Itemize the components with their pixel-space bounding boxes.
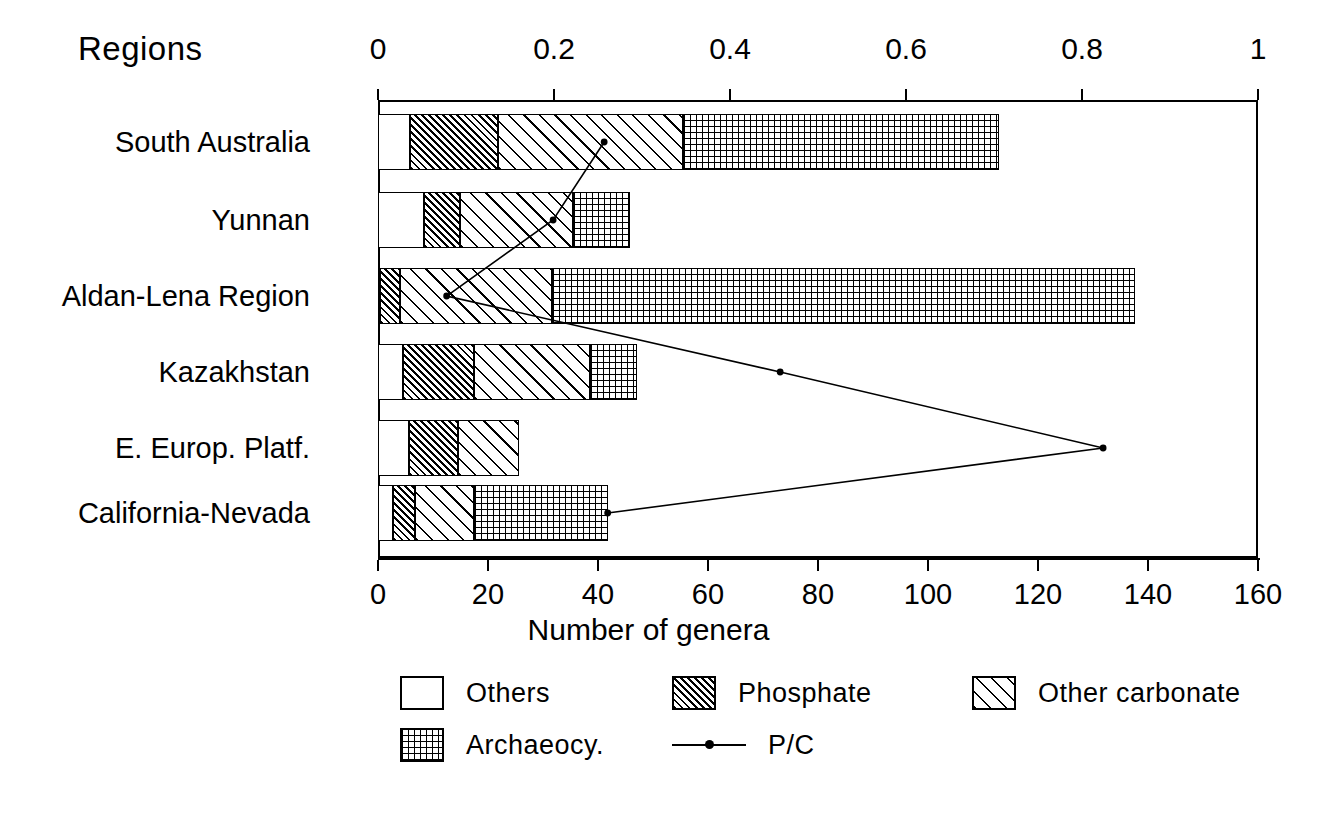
bottom-tick-label-40: 40 xyxy=(582,578,614,611)
top-tick-0.6 xyxy=(905,89,907,100)
bar-segment-phosphate xyxy=(403,344,475,400)
bar-segment-others xyxy=(378,485,393,541)
archaeocy-swatch-icon xyxy=(400,728,444,762)
legend-item-phosphate[interactable]: Phosphate xyxy=(672,676,872,710)
category-label-california-nevada: California-Nevada xyxy=(78,497,310,530)
others-swatch-icon xyxy=(400,676,444,710)
category-label-e-europ-platf: E. Europ. Platf. xyxy=(115,432,310,465)
legend-label-phosphate: Phosphate xyxy=(738,678,872,709)
legend-label-pc: P/C xyxy=(768,730,815,761)
bar-row xyxy=(378,192,1258,248)
bar-row xyxy=(378,420,1258,476)
bottom-tick-60 xyxy=(707,560,709,571)
bottom-tick-100 xyxy=(927,560,929,571)
bar-segment-other-carbonate xyxy=(498,114,683,170)
bottom-tick-80 xyxy=(817,560,819,571)
bar-segment-archaeocy xyxy=(590,344,637,400)
pc-line-marker-icon xyxy=(672,728,746,762)
bottom-tick-label-160: 160 xyxy=(1234,578,1282,611)
category-label-south-australia: South Australia xyxy=(115,126,310,159)
bottom-tick-160 xyxy=(1257,560,1259,571)
bar-segment-other-carbonate xyxy=(460,192,573,248)
chart-legend: Others Phosphate Other carbonate Archaeo… xyxy=(0,676,1317,780)
top-tick-0.8 xyxy=(1081,89,1083,100)
bar-segment-others xyxy=(378,114,410,170)
legend-label-other-carbonate: Other carbonate xyxy=(1038,678,1241,709)
category-label-aldan-lena-region: Aldan-Lena Region xyxy=(62,280,310,313)
bar-segment-archaeocy xyxy=(573,192,630,248)
bottom-tick-20 xyxy=(487,560,489,571)
bar-segment-others xyxy=(378,420,409,476)
legend-item-pc[interactable]: P/C xyxy=(672,728,815,762)
bar-segment-phosphate xyxy=(409,420,459,476)
bottom-tick-label-120: 120 xyxy=(1014,578,1062,611)
top-tick-label-0.8: 0.8 xyxy=(1061,32,1103,66)
top-tick-0.4 xyxy=(729,89,731,100)
other-carbonate-swatch-icon xyxy=(972,676,1016,710)
bar-segment-phosphate xyxy=(424,192,460,248)
bottom-tick-label-80: 80 xyxy=(802,578,834,611)
bar-segment-archaeocy xyxy=(474,485,608,541)
bar-segment-other-carbonate xyxy=(458,420,519,476)
bar-segment-other-carbonate xyxy=(400,268,552,324)
legend-item-others[interactable]: Others xyxy=(400,676,550,710)
top-tick-label-0.4: 0.4 xyxy=(709,32,751,66)
bottom-tick-label-100: 100 xyxy=(904,578,952,611)
bar-segment-phosphate xyxy=(380,268,400,324)
legend-item-other-carbonate[interactable]: Other carbonate xyxy=(972,676,1241,710)
bar-segment-other-carbonate xyxy=(415,485,474,541)
bar-segment-others xyxy=(378,344,403,400)
bar-segment-archaeocy xyxy=(683,114,1000,170)
category-label-kazakhstan: Kazakhstan xyxy=(158,356,310,389)
x-axis-title-text: Number of genera xyxy=(528,613,770,646)
bottom-tick-120 xyxy=(1037,560,1039,571)
regions-axis-title: Regions xyxy=(78,30,203,68)
bottom-tick-label-140: 140 xyxy=(1124,578,1172,611)
phosphate-swatch-icon xyxy=(672,676,716,710)
bar-segment-other-carbonate xyxy=(474,344,590,400)
bottom-tick-0 xyxy=(377,560,379,571)
bottom-tick-40 xyxy=(597,560,599,571)
bottom-axis-line xyxy=(378,558,1260,560)
bottom-tick-label-20: 20 xyxy=(472,578,504,611)
top-tick-0.2 xyxy=(553,89,555,100)
bar-segment-archaeocy xyxy=(552,268,1135,324)
top-tick-0 xyxy=(377,89,379,100)
legend-row-2: Archaeocy. P/C xyxy=(0,728,1317,780)
bar-row xyxy=(378,485,1258,541)
bar-segment-phosphate xyxy=(410,114,498,170)
top-tick-label-0.6: 0.6 xyxy=(885,32,927,66)
x-axis-title: Number of genera xyxy=(0,613,1317,647)
top-tick-1 xyxy=(1257,89,1259,100)
bar-row xyxy=(378,114,1258,170)
bottom-tick-label-0: 0 xyxy=(370,578,386,611)
bar-segment-phosphate xyxy=(393,485,415,541)
legend-label-archaeocy: Archaeocy. xyxy=(466,730,604,761)
bottom-tick-label-60: 60 xyxy=(692,578,724,611)
bar-row xyxy=(378,268,1258,324)
bar-segment-others xyxy=(378,192,424,248)
top-tick-label-0.2: 0.2 xyxy=(533,32,575,66)
top-tick-label-1: 1 xyxy=(1250,32,1267,66)
legend-row-1: Others Phosphate Other carbonate xyxy=(0,676,1317,728)
top-tick-label-0: 0 xyxy=(370,32,387,66)
category-label-yunnan: Yunnan xyxy=(212,204,310,237)
legend-label-others: Others xyxy=(466,678,550,709)
bar-row xyxy=(378,344,1258,400)
bottom-tick-140 xyxy=(1147,560,1149,571)
legend-item-archaeocy[interactable]: Archaeocy. xyxy=(400,728,604,762)
